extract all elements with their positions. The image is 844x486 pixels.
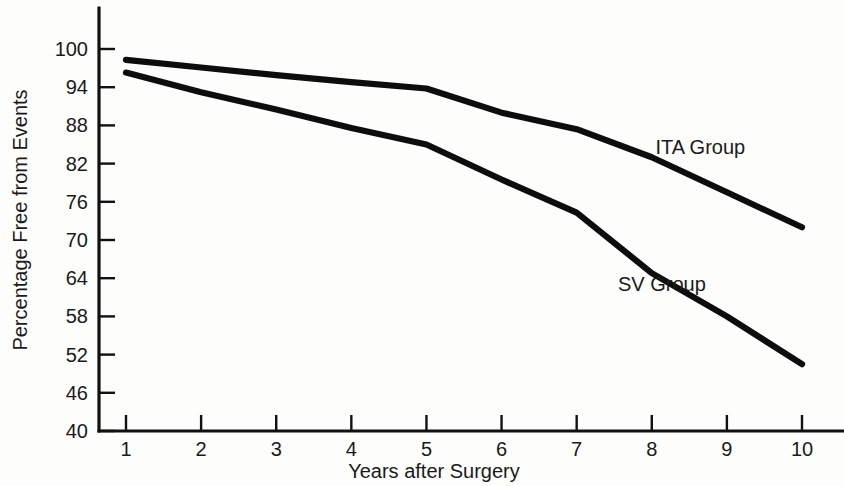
chart-figure: 40465258647076828894100 12345678910 ITA … <box>0 0 844 486</box>
y-tick-label: 76 <box>66 191 88 213</box>
x-tick-labels: 12345678910 <box>120 438 813 460</box>
x-tick-label: 1 <box>120 438 131 460</box>
y-tick-label: 40 <box>66 420 88 442</box>
y-tick-label: 94 <box>66 76 88 98</box>
y-tick-marks <box>99 49 115 431</box>
x-tick-label: 8 <box>646 438 657 460</box>
x-tick-label: 3 <box>271 438 282 460</box>
y-axis-title: Percentage Free from Events <box>9 89 31 350</box>
y-tick-label: 88 <box>66 114 88 136</box>
y-tick-label: 64 <box>66 267 88 289</box>
y-axis-group: 40465258647076828894100 <box>55 8 115 442</box>
x-tick-marks <box>126 415 802 431</box>
y-tick-label: 82 <box>66 153 88 175</box>
x-tick-label: 10 <box>791 438 813 460</box>
x-tick-label: 7 <box>571 438 582 460</box>
series-line-sv-group <box>126 73 802 365</box>
x-tick-label: 9 <box>721 438 732 460</box>
series-label-group: ITA GroupSV Group <box>618 136 745 295</box>
series-label-ita-group: ITA Group <box>656 136 746 158</box>
x-axis-title: Years after Surgery <box>348 460 520 482</box>
y-tick-label: 100 <box>55 38 88 60</box>
x-tick-label: 5 <box>421 438 432 460</box>
chart-canvas: 40465258647076828894100 12345678910 ITA … <box>0 0 844 486</box>
x-axis-group: 12345678910 <box>99 415 844 460</box>
x-tick-label: 6 <box>496 438 507 460</box>
y-tick-label: 52 <box>66 344 88 366</box>
x-tick-label: 2 <box>196 438 207 460</box>
y-tick-label: 58 <box>66 305 88 327</box>
y-tick-labels: 40465258647076828894100 <box>55 38 88 442</box>
x-tick-label: 4 <box>346 438 357 460</box>
series-label-sv-group: SV Group <box>618 273 706 295</box>
data-series-group <box>126 60 802 364</box>
y-tick-label: 70 <box>66 229 88 251</box>
y-tick-label: 46 <box>66 382 88 404</box>
